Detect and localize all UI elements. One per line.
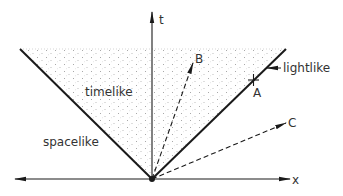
t-axis-label: t <box>159 13 164 27</box>
timelike-label: timelike <box>85 85 133 99</box>
timelike-region <box>20 49 286 179</box>
point-b-label: B <box>195 52 203 66</box>
point-a-label: A <box>253 86 262 100</box>
origin-point <box>149 176 155 182</box>
spacelike-label: spacelike <box>43 135 99 149</box>
x-axis-label: x <box>292 173 299 187</box>
lightlike-label: lightlike <box>283 61 330 75</box>
point-c-label: C <box>288 116 296 130</box>
spacetime-diagram: t x timelike spacelike lightlike A B C <box>0 0 343 196</box>
